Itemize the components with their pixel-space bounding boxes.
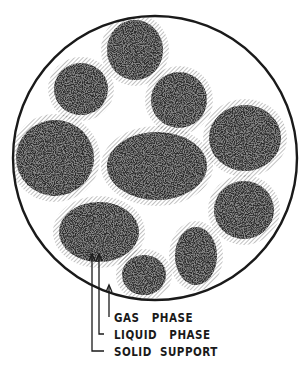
- solid-support-leader: [92, 256, 104, 351]
- solid-support-core: [16, 120, 94, 196]
- label-gas-phase: GAS PHASE: [114, 311, 193, 325]
- solid-support-core: [107, 132, 207, 200]
- solid-support-core: [214, 181, 274, 239]
- solid-support-core: [54, 63, 108, 115]
- particle-upper-right: [145, 66, 213, 134]
- solid-support-core: [151, 72, 207, 128]
- label-liquid-phase: LIQUID PHASE: [114, 328, 211, 342]
- particle-center: [101, 126, 213, 206]
- label-solid-support: SOLID SUPPORT: [114, 345, 218, 359]
- particle-right: [203, 99, 287, 177]
- particle-upper-left: [48, 57, 114, 121]
- particle-lower-right: [208, 175, 280, 245]
- solid-support-core: [175, 227, 217, 285]
- solid-support-core: [209, 105, 281, 171]
- particle-bottom-center-right: [169, 221, 223, 291]
- leader-lines: [89, 254, 112, 351]
- particle-left: [10, 114, 100, 202]
- solid-support-core: [107, 20, 163, 80]
- solid-support-core: [122, 255, 166, 295]
- particle-bottom-center: [116, 249, 172, 301]
- particle-group: [10, 14, 287, 301]
